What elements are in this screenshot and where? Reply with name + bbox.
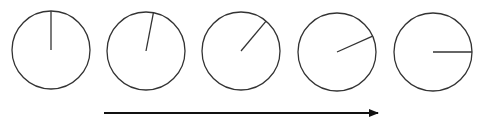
radius-line: [241, 21, 266, 51]
circle-sequence: [12, 11, 472, 91]
clock-circle-3: [202, 12, 280, 90]
rotation-sequence-diagram: [0, 0, 483, 119]
radius-line: [146, 13, 153, 51]
clock-circle-2: [107, 12, 185, 90]
clock-circle-1: [12, 11, 90, 89]
clock-circle-5: [394, 13, 472, 91]
clock-circle-4: [298, 13, 376, 91]
radius-line: [337, 36, 373, 52]
